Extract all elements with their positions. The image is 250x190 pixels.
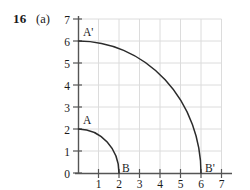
x-tick-label-5: 5 <box>178 178 184 190</box>
y-axis-ticks <box>73 19 82 173</box>
grid-horizontal-lines <box>78 19 222 151</box>
y-tick-label-5: 5 <box>64 58 70 70</box>
figure-container: 16 (a) <box>0 0 250 190</box>
y-tick-label-7: 7 <box>64 14 70 26</box>
x-tick-label-7: 7 <box>219 178 225 190</box>
x-tick-label-1: 1 <box>96 178 102 190</box>
y-tick-label-6: 6 <box>64 36 70 48</box>
x-tick-label-3: 3 <box>137 178 143 190</box>
grid-vertical-lines <box>99 19 222 173</box>
y-tick-label-1: 1 <box>64 146 70 158</box>
x-tick-label-2: 2 <box>116 178 122 190</box>
point-label-B: B <box>122 162 130 174</box>
point-label-A: A <box>83 114 92 126</box>
plot-area: 0 1 2 3 4 5 6 7 1 2 3 4 5 6 7 A B A' B' <box>0 0 250 190</box>
y-tick-label-3: 3 <box>64 102 70 114</box>
y-tick-label-2: 2 <box>64 124 70 136</box>
x-tick-label-4: 4 <box>157 178 163 190</box>
point-label-A-prime: A' <box>83 26 93 38</box>
x-tick-label-6: 6 <box>198 178 204 190</box>
point-label-B-prime: B' <box>205 162 215 174</box>
y-tick-label-0: 0 <box>64 168 70 180</box>
y-tick-label-4: 4 <box>64 80 70 92</box>
